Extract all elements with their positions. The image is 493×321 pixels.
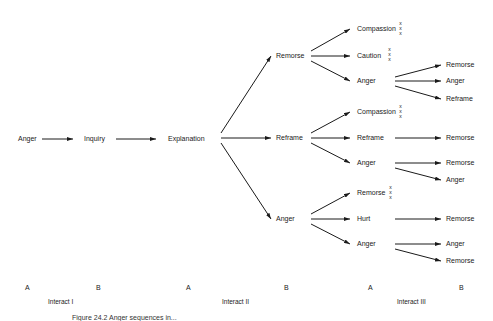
node-anger-l3: Anger <box>276 215 295 223</box>
interact-label-2: Interact II <box>222 298 249 305</box>
column-label-b: B <box>284 284 289 291</box>
node-compassion-b: Compassion <box>357 108 396 116</box>
node-anger-a1: Anger <box>446 77 465 85</box>
node-anger-b2: Anger <box>446 176 465 184</box>
figure-caption: Figure 24.2 Anger sequences in... <box>72 314 177 321</box>
interact-label-1: Interact I <box>48 298 73 305</box>
node-reframe-a1: Reframe <box>446 95 473 103</box>
node-reframe-l3: Reframe <box>276 134 303 142</box>
node-remorse-c2: Remorse <box>446 257 474 265</box>
node-anger-b: Anger <box>357 159 376 167</box>
terminal-mark: xxx <box>387 47 392 62</box>
column-label-b: B <box>96 284 101 291</box>
interact-label-3: Interact III <box>397 298 426 305</box>
node-remorse-l3: Remorse <box>276 52 304 60</box>
column-label-a: A <box>25 284 30 291</box>
node-remorse-c: Remorse <box>357 189 385 197</box>
node-anger-start: Anger <box>18 135 37 143</box>
node-reframe-b: Reframe <box>357 134 384 142</box>
terminal-mark: xxx <box>398 104 403 119</box>
node-explanation: Explanation <box>168 135 205 143</box>
node-compassion-a: Compassion <box>357 25 396 33</box>
column-label-a: A <box>368 284 373 291</box>
node-inquiry: Inquiry <box>84 135 105 143</box>
terminal-mark: xxx <box>398 21 403 36</box>
node-anger-a: Anger <box>357 77 376 85</box>
node-remorse-b1: Remorse <box>446 134 474 142</box>
node-caution-a: Caution <box>357 52 381 60</box>
node-remorse-a1: Remorse <box>446 61 474 69</box>
node-anger-c2: Anger <box>446 240 465 248</box>
node-remorse-b2: Remorse <box>446 159 474 167</box>
node-remorse-c1: Remorse <box>446 215 474 223</box>
node-anger-c: Anger <box>357 240 376 248</box>
terminal-mark: xxx <box>388 185 393 200</box>
column-label-a: A <box>186 284 191 291</box>
node-hurt-c: Hurt <box>357 215 370 223</box>
column-label-b: B <box>459 284 464 291</box>
